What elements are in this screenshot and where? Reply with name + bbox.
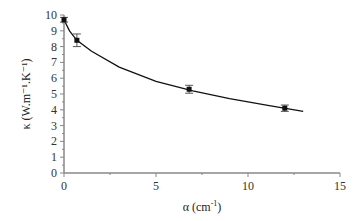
y-tick-label: 10	[45, 8, 57, 22]
chart: 012345678910051015α (cm-1)κ (W.m⁻¹.K⁻¹)	[0, 0, 361, 221]
data-point	[187, 87, 192, 92]
data-point	[282, 106, 287, 111]
data-point	[62, 17, 67, 22]
y-tick-label: 1	[51, 150, 57, 164]
y-tick-label: 5	[51, 87, 57, 101]
y-tick-label: 7	[51, 55, 57, 69]
x-tick-label: 0	[61, 179, 67, 193]
fit-curve	[64, 20, 303, 112]
y-tick-label: 9	[51, 24, 57, 38]
x-tick-label: 15	[334, 179, 346, 193]
y-tick-label: 2	[51, 134, 57, 148]
x-tick-label: 5	[153, 179, 159, 193]
x-axis-label: α (cm-1)	[183, 199, 222, 214]
y-tick-label: 3	[51, 119, 57, 133]
y-axis-label: κ (W.m⁻¹.K⁻¹)	[19, 58, 33, 129]
data-point	[74, 38, 79, 43]
y-tick-label: 0	[51, 166, 57, 180]
y-tick-label: 6	[51, 71, 57, 85]
y-tick-label: 8	[51, 40, 57, 54]
x-tick-label: 10	[242, 179, 254, 193]
y-tick-label: 4	[51, 103, 57, 117]
